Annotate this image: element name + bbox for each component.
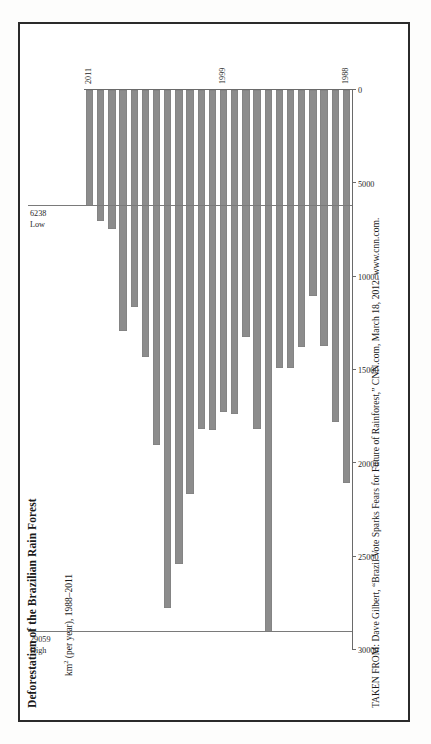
year-tick-label: 1999 (218, 68, 227, 84)
axis-label-rest: (per year), 1988–2011 (64, 574, 74, 661)
bar (119, 90, 126, 331)
bar (220, 90, 227, 412)
bar (298, 90, 305, 347)
bar (320, 90, 327, 346)
bar (175, 90, 182, 564)
year-tick-label: 2011 (84, 68, 93, 84)
annotation-line-high (28, 631, 352, 632)
rotated-figure-content: Deforestation of the Brazilian Rain Fore… (18, 22, 410, 722)
bar (265, 90, 272, 632)
plot-inner: 3000025000200001500010000500002011199919… (84, 90, 352, 650)
figure-frame: Deforestation of the Brazilian Rain Fore… (18, 22, 410, 722)
bar (131, 90, 138, 307)
page-title: Deforestation of the Brazilian Rain Fore… (26, 498, 38, 708)
value-tick (352, 89, 356, 90)
bar (198, 90, 205, 429)
bar (231, 90, 238, 414)
bar-chart-plot: 3000025000200001500010000500002011199919… (84, 90, 352, 650)
annotation-value-high: 29059 (30, 635, 50, 644)
bar (309, 90, 316, 296)
bar (97, 90, 104, 221)
value-tick (352, 182, 356, 183)
value-tick-label: 0 (358, 87, 362, 96)
bar (253, 90, 260, 429)
bar (108, 90, 115, 229)
value-tick (352, 369, 356, 370)
annotation-label-high: High (30, 646, 46, 655)
bar (186, 90, 193, 494)
bar (343, 90, 350, 483)
bar (142, 90, 149, 357)
bar (164, 90, 171, 608)
value-tick-label: 5000 (358, 180, 374, 189)
bar (332, 90, 339, 422)
axis-label: km2 (per year), 1988–2011 (62, 574, 74, 676)
figure-page: Deforestation of the Brazilian Rain Fore… (0, 0, 431, 744)
value-tick (352, 276, 356, 277)
value-tick (352, 462, 356, 463)
value-axis-line (352, 90, 353, 650)
annotation-value-low: 6238 (30, 209, 46, 218)
axis-label-unit: km (64, 664, 74, 676)
value-tick (352, 649, 356, 650)
value-tick (352, 556, 356, 557)
bar (287, 90, 294, 368)
bar (153, 90, 160, 445)
source-caption: TAKEN FROM: Dave Gilbert, “Brazil Vote S… (370, 218, 381, 708)
annotation-label-low: Low (30, 220, 45, 229)
bar (209, 90, 216, 430)
annotation-line-low (28, 205, 352, 206)
year-tick-label: 1988 (341, 68, 350, 84)
axis-label-exponent: 2 (62, 661, 69, 664)
bar (242, 90, 249, 337)
bar (86, 90, 93, 206)
bar (276, 90, 283, 368)
